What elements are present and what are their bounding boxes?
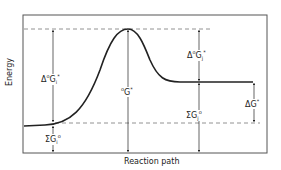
x-axis-label: Reaction path — [124, 157, 179, 166]
energy-diagram — [0, 0, 281, 170]
label-reverse-activation: ΔoGj* — [187, 50, 206, 61]
label-forward-activation: ΔoGi* — [41, 74, 60, 85]
y-axis-label: Energy — [5, 58, 14, 86]
label-reactants-sum: ΣGio — [45, 134, 61, 145]
label-products-sum: ΣGjo — [186, 110, 202, 121]
label-transition-state: oG* — [121, 87, 133, 97]
label-reaction-free-energy: ΔG* — [245, 99, 259, 109]
